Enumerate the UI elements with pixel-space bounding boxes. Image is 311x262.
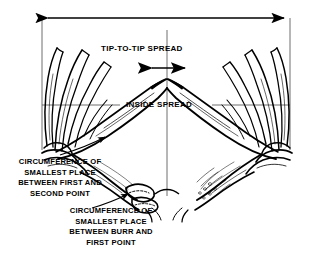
left-tine-4-right [90, 105, 112, 139]
label-inside-spread: INSIDE SPREAD [126, 100, 192, 109]
right-main-beam-bottom [167, 88, 276, 159]
label-circumference-first-second-point: CIRCUMFERENCE OF SMALLEST PLACE BETWEEN … [6, 157, 114, 199]
right-beam-shade-1 [180, 93, 230, 128]
label-tip-to-tip-spread: TIP-TO-TIP SPREAD [101, 44, 183, 53]
right-tine-2-tip [245, 50, 252, 55]
right-tine-3-tip [223, 62, 230, 67]
label-line: SMALLEST PLACE [6, 168, 114, 179]
right-pedicle-2 [173, 208, 182, 220]
right-tine-1-tip [271, 48, 277, 52]
antler-measurement-figure: TIP-TO-TIP SPREAD INSIDE SPREAD CIRCUMFE… [0, 0, 311, 262]
right-antler [167, 48, 292, 222]
label-line: CIRCUMFERENCE OF [52, 206, 170, 217]
right-tine-4-right [222, 105, 244, 139]
left-tine-3-tip [104, 62, 111, 67]
left-tine-2-tip [82, 50, 89, 55]
right-beam-shade-2 [188, 101, 238, 136]
label-line: SMALLEST PLACE [52, 217, 170, 228]
left-beam-tip [151, 79, 167, 89]
left-main-beam-top [56, 79, 166, 152]
label-line: FIRST POINT [52, 238, 170, 249]
left-beam-shade-1 [104, 93, 154, 128]
left-circ-band-burr-dash [129, 191, 149, 193]
right-lower-beam-shade-2 [206, 166, 240, 189]
label-line: BETWEEN FIRST AND [6, 178, 114, 189]
left-tine-1-left [45, 48, 57, 146]
label-circumference-burr-first-point: CIRCUMFERENCE OF SMALLEST PLACE BETWEEN … [52, 206, 170, 248]
right-main-beam-top [168, 79, 278, 152]
measurement-arrows [48, 18, 284, 68]
label-line: CIRCUMFERENCE OF [6, 157, 114, 168]
left-main-beam-bottom [58, 88, 167, 159]
right-beam-tip [167, 79, 183, 89]
left-tine-1-tip [57, 48, 63, 52]
right-lower-beam-bottom [195, 172, 254, 210]
label-line: SECOND POINT [6, 189, 114, 200]
label-line: BETWEEN BURR AND [52, 227, 170, 238]
right-pedicle [182, 210, 188, 222]
right-burr-shade [257, 164, 286, 168]
right-tine-1-left [277, 48, 289, 146]
right-lower-beam-top [197, 154, 262, 200]
